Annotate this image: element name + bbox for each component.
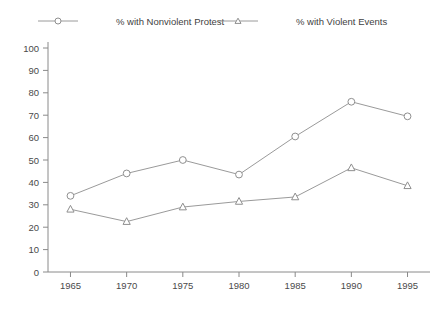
y-tick-label: 40 xyxy=(28,177,39,188)
chart-canvas: % with Nonviolent Protest % with Violent… xyxy=(0,0,438,313)
data-point-marker-triangle-icon xyxy=(292,193,299,200)
y-tick-label: 30 xyxy=(28,199,39,210)
chart-legend: % with Nonviolent Protest % with Violent… xyxy=(38,16,387,27)
legend-item-nonviolent-protest[interactable]: % with Nonviolent Protest xyxy=(38,16,225,27)
legend-marker-circle-icon xyxy=(55,18,61,24)
x-tick-label: 1995 xyxy=(397,280,418,291)
data-point-marker-circle-icon xyxy=(179,157,186,164)
legend-item-violent-events[interactable]: % with Violent Events xyxy=(218,16,387,27)
x-tick-label: 1970 xyxy=(116,280,137,291)
y-tick-label: 90 xyxy=(28,65,39,76)
data-point-marker-circle-icon xyxy=(236,171,243,178)
y-tick-label: 50 xyxy=(28,155,39,166)
series-with-nonviolent-protest xyxy=(67,98,411,199)
x-tick-label: 1975 xyxy=(172,280,193,291)
data-point-marker-triangle-icon xyxy=(348,164,355,171)
y-tick-label: 0 xyxy=(34,267,39,278)
data-point-marker-circle-icon xyxy=(123,170,130,177)
y-tick-label: 20 xyxy=(28,222,39,233)
x-tick-label: 1980 xyxy=(228,280,249,291)
x-axis-ticks: 1965197019751980198519901995 xyxy=(60,272,418,291)
y-tick-label: 60 xyxy=(28,132,39,143)
y-axis-ticks: 0102030405060708090100 xyxy=(23,43,48,278)
series-line-with-nonviolent-protest xyxy=(70,102,407,196)
legend-label-violent-events: % with Violent Events xyxy=(296,16,387,27)
data-point-marker-circle-icon xyxy=(67,192,74,199)
legend-label-nonviolent-protest: % with Nonviolent Protest xyxy=(116,16,225,27)
data-point-marker-circle-icon xyxy=(292,133,299,140)
y-tick-label: 100 xyxy=(23,43,39,54)
data-point-marker-circle-icon xyxy=(404,113,411,120)
x-tick-label: 1985 xyxy=(285,280,306,291)
y-tick-label: 80 xyxy=(28,87,39,98)
chart-axes xyxy=(48,42,430,272)
chart-caption-fragment xyxy=(62,303,382,313)
y-tick-label: 70 xyxy=(28,110,39,121)
x-tick-label: 1990 xyxy=(341,280,362,291)
line-chart: % with Nonviolent Protest % with Violent… xyxy=(0,0,438,313)
data-point-marker-circle-icon xyxy=(348,98,355,105)
x-tick-label: 1965 xyxy=(60,280,81,291)
data-point-marker-triangle-icon xyxy=(67,205,74,212)
chart-series-layer xyxy=(67,98,411,224)
y-tick-label: 10 xyxy=(28,244,39,255)
